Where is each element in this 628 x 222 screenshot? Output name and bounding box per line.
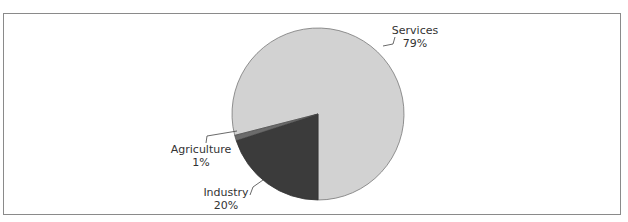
label-services: Services 79% [390, 24, 440, 50]
leader-industry [250, 180, 263, 195]
label-agriculture: Agriculture 1% [170, 143, 232, 169]
label-industry-pct: 20% [202, 199, 250, 212]
label-agriculture-pct: 1% [170, 156, 232, 169]
label-services-name: Services [390, 24, 440, 37]
label-industry-name: Industry [202, 186, 250, 199]
label-agriculture-name: Agriculture [170, 143, 232, 156]
pie-chart [0, 0, 628, 222]
label-services-pct: 79% [390, 37, 440, 50]
label-industry: Industry 20% [202, 186, 250, 212]
leader-agriculture [206, 131, 237, 143]
